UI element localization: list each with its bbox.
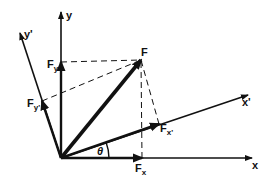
label-x-prime: x' bbox=[242, 96, 251, 108]
label-x: x bbox=[252, 159, 259, 171]
vector-diagram: y y' x x' F Fy Fy' Fx Fx' θ bbox=[0, 0, 272, 184]
label-Fx-prime: Fx' bbox=[160, 122, 173, 137]
angle-theta-arc bbox=[106, 142, 109, 158]
projection-Fx bbox=[141, 60, 142, 158]
label-Fx: Fx bbox=[135, 162, 147, 177]
label-theta: θ bbox=[97, 145, 103, 157]
projection-Fx-prime bbox=[141, 60, 159, 124]
label-F: F bbox=[141, 46, 148, 58]
label-y-prime: y' bbox=[24, 28, 33, 40]
label-y: y bbox=[66, 9, 73, 21]
vector-Fy-prime bbox=[42, 101, 61, 158]
label-Fy-prime: Fy' bbox=[27, 97, 40, 112]
label-Fy: Fy bbox=[47, 58, 59, 73]
projection-Fy bbox=[61, 60, 141, 62]
